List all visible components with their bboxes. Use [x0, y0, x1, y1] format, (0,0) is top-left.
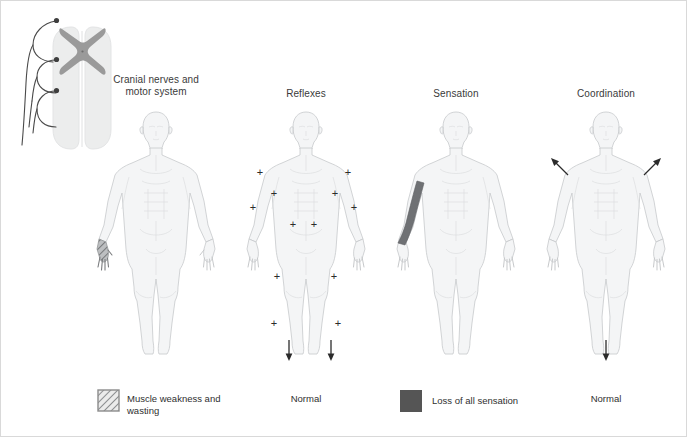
panel-title-reflexes: Reflexes [246, 88, 366, 100]
legend-label-reflexes-normal: Normal [266, 393, 346, 404]
legend-label-line2: wasting [127, 405, 257, 417]
plantar-down-arrow-left-icon [282, 339, 296, 363]
coordination-arrow-right-icon [641, 156, 663, 178]
legend-swatch-sensation-loss [400, 390, 422, 412]
reflex-plus-left-elbow: + [269, 188, 279, 199]
nerve-roots [22, 21, 56, 145]
reflex-plus-left-ankle: + [269, 318, 279, 329]
reflex-plus-right-knee: + [329, 271, 339, 282]
reflex-plus-right-hip: + [309, 219, 319, 230]
coordination-arrow-left-icon [549, 156, 571, 178]
legend-label-line1: Muscle weakness and [127, 393, 257, 405]
reflex-plus-left-shoulder: + [255, 167, 265, 178]
body-figure-coordination [546, 109, 666, 359]
coordination-down-arrow-icon [599, 339, 613, 363]
legend-swatch-muscle-wasting [97, 389, 121, 413]
legend-label-coordination-normal: Normal [566, 393, 646, 404]
body-figure-cranial-motor [96, 109, 216, 359]
panel-title-cranial-motor: Cranial nerves and motor system [96, 74, 216, 98]
plantar-down-arrow-right-icon [324, 339, 338, 363]
diagram-frame: Cranial nerves and motor system Reflexes… [0, 0, 687, 437]
hand-muscle-wasting-marker [97, 239, 112, 270]
panel-title-line1: Cranial nerves and [96, 74, 216, 86]
panel-title-sensation: Sensation [396, 88, 516, 100]
reflex-plus-left-hip: + [288, 219, 298, 230]
panel-title-coordination: Coordination [546, 88, 666, 100]
reflex-plus-left-wrist: + [248, 202, 258, 213]
legend-label-muscle-wasting: Muscle weakness and wasting [127, 393, 257, 417]
panel-title-line2: motor system [96, 86, 216, 98]
body-figure-reflexes [246, 109, 366, 359]
reflex-plus-right-ankle: + [333, 318, 343, 329]
reflex-plus-left-knee: + [272, 271, 282, 282]
body-figure-sensation [396, 109, 516, 359]
reflex-plus-right-wrist: + [349, 202, 359, 213]
reflex-plus-right-shoulder: + [343, 167, 353, 178]
reflex-plus-right-elbow: + [330, 188, 340, 199]
